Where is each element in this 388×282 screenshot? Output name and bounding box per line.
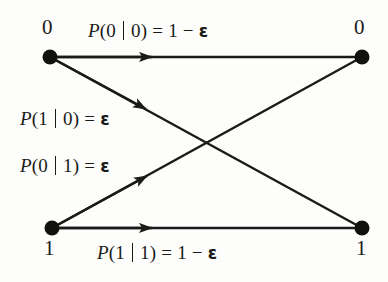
epsilon-symbol: ε [100, 158, 110, 175]
bsc-diagram-figure: 0 0 1 1 P ( 0 0 ) = 1 − ε P ( 1 0 ) = ε … [0, 0, 388, 282]
prob-equals-sign: = [152, 21, 163, 40]
node-output-1 [355, 221, 370, 236]
epsilon-symbol: ε [208, 245, 218, 262]
conditional-bar [55, 109, 56, 128]
prob-close-paren: ) [73, 109, 80, 128]
prob-output-arg: 1 [115, 243, 125, 262]
prob-function-symbol: P [97, 243, 109, 262]
prob-input-arg: 0 [63, 109, 73, 128]
node-input-1 [45, 221, 60, 236]
node-label-input-1: 1 [44, 238, 55, 259]
prob-output-arg: 0 [106, 21, 116, 40]
prob-output-arg: 1 [38, 109, 48, 128]
prob-close-paren: ) [141, 21, 148, 40]
conditional-bar [55, 156, 56, 175]
edge-label-0-to-0: P ( 0 0 ) = 1 − ε [88, 18, 208, 40]
prob-input-arg: 1 [63, 156, 73, 175]
prob-function-symbol: P [20, 109, 32, 128]
prob-value-term: 1 − [177, 243, 203, 262]
prob-output-arg: 0 [38, 156, 48, 175]
prob-equals-sign: = [84, 156, 95, 175]
prob-equals-sign: = [161, 243, 172, 262]
prob-function-symbol: P [88, 21, 100, 40]
edge-label-0-to-1: P ( 1 0 ) = ε [20, 106, 110, 128]
conditional-bar [123, 21, 124, 40]
node-label-output-0: 0 [354, 17, 365, 38]
prob-input-arg: 0 [131, 21, 141, 40]
prob-close-paren: ) [73, 156, 80, 175]
node-input-0 [43, 50, 58, 65]
node-output-0 [355, 50, 370, 65]
node-label-input-0: 0 [42, 17, 53, 38]
epsilon-symbol: ε [100, 111, 110, 128]
edge-label-1-to-1: P ( 1 1 ) = 1 − ε [97, 240, 217, 262]
prob-equals-sign: = [84, 109, 95, 128]
node-label-output-1: 1 [356, 238, 367, 259]
prob-close-paren: ) [150, 243, 157, 262]
prob-value-term: 1 − [168, 21, 194, 40]
prob-function-symbol: P [20, 156, 32, 175]
prob-input-arg: 1 [140, 243, 150, 262]
conditional-bar [132, 243, 133, 262]
edge-label-1-to-0: P ( 0 1 ) = ε [20, 153, 110, 175]
epsilon-symbol: ε [199, 23, 209, 40]
